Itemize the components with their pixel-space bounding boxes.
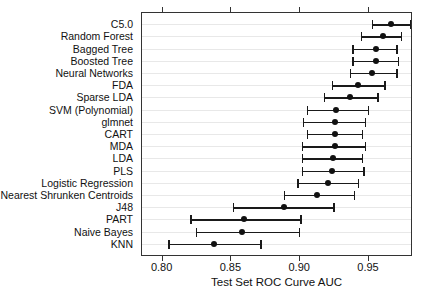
y-axis-tick-label: MDA: [110, 141, 133, 152]
confidence-interval-cap-lower: [361, 32, 362, 41]
data-row: [142, 214, 411, 226]
data-point-marker: [330, 155, 336, 161]
confidence-interval-cap-lower: [332, 81, 333, 90]
y-axis-tick-label: PART: [106, 214, 133, 225]
y-axis-tick-label: Boosted Tree: [71, 55, 133, 66]
x-axis-tick-label: 0.85: [220, 261, 241, 273]
y-axis-tick-label: FDA: [112, 80, 133, 91]
confidence-interval-cap-lower: [168, 240, 169, 249]
data-row: [142, 105, 411, 117]
data-point-marker: [333, 107, 339, 113]
data-row: [142, 68, 411, 80]
y-axis-tick-label: Sparse LDA: [76, 92, 133, 103]
data-row: [142, 80, 411, 92]
confidence-interval-cap-lower: [233, 203, 234, 212]
y-axis-tick-label: J48: [116, 202, 133, 213]
confidence-interval-cap-lower: [324, 93, 325, 102]
confidence-interval-cap-lower: [372, 20, 373, 29]
confidence-interval-cap-lower: [350, 69, 351, 78]
data-point-marker: [329, 168, 335, 174]
data-row: [142, 19, 411, 31]
data-point-marker: [369, 70, 375, 76]
data-row: [142, 56, 411, 68]
data-row: [142, 239, 411, 251]
data-row: [142, 129, 411, 141]
confidence-interval-cap-lower: [302, 142, 303, 151]
data-row: [142, 227, 411, 239]
y-axis-tick-label: Bagged Tree: [73, 43, 133, 54]
data-point-marker: [332, 119, 338, 125]
y-axis-tick-label: SVM (Polynomial): [49, 104, 133, 115]
data-point-marker: [373, 46, 379, 52]
confidence-interval-cap-lower: [196, 228, 197, 237]
confidence-interval-cap-upper: [260, 240, 261, 249]
confidence-interval-cap-upper: [377, 93, 378, 102]
y-axis-tick-label: PLS: [113, 165, 133, 176]
y-axis-tick-label: CART: [105, 129, 133, 140]
confidence-interval-cap-lower: [352, 57, 353, 66]
confidence-interval-cap-upper: [410, 20, 411, 29]
confidence-interval-cap-lower: [284, 191, 285, 200]
x-axis-tick-top: [162, 7, 163, 12]
confidence-interval-cap-upper: [384, 81, 385, 90]
confidence-interval-cap-upper: [396, 69, 397, 78]
roc-auc-dot-chart: C5.0Random ForestBagged TreeBoosted Tree…: [0, 0, 426, 294]
data-row: [142, 92, 411, 104]
confidence-interval-cap-upper: [358, 179, 359, 188]
y-axis-tick-label: Random Forest: [61, 31, 133, 42]
confidence-interval-cap-lower: [190, 215, 191, 224]
confidence-interval-cap-upper: [365, 142, 366, 151]
data-row: [142, 117, 411, 129]
x-axis-tick-top: [230, 7, 231, 12]
data-point-marker: [211, 241, 217, 247]
confidence-interval-cap-lower: [303, 118, 304, 127]
confidence-interval-cap-upper: [362, 154, 363, 163]
confidence-interval-cap-lower: [302, 167, 303, 176]
confidence-interval-cap-upper: [362, 130, 363, 139]
confidence-interval-line: [196, 232, 299, 233]
confidence-interval-cap-upper: [363, 167, 364, 176]
x-axis-tick-label: 0.95: [357, 261, 378, 273]
y-axis-tick-label: glmnet: [101, 116, 133, 127]
confidence-interval-cap-upper: [368, 106, 369, 115]
data-point-marker: [281, 204, 287, 210]
data-point-marker: [388, 21, 394, 27]
data-point-marker: [347, 94, 353, 100]
y-axis-tick-label: Naive Bayes: [74, 226, 133, 237]
data-point-marker: [355, 82, 361, 88]
confidence-interval-cap-lower: [307, 130, 308, 139]
data-point-marker: [380, 33, 386, 39]
x-axis-tick-label: 0.80: [151, 261, 172, 273]
confidence-interval-cap-upper: [300, 215, 301, 224]
data-point-marker: [332, 131, 338, 137]
data-row: [142, 44, 411, 56]
data-point-marker: [241, 216, 247, 222]
data-row: [142, 153, 411, 165]
confidence-interval-cap-upper: [333, 203, 334, 212]
y-axis-tick-label: C5.0: [111, 19, 133, 30]
y-axis-tick-label: Neural Networks: [55, 68, 133, 79]
x-axis-title: Test Set ROC Curve AUC: [141, 276, 412, 288]
confidence-interval-cap-lower: [352, 45, 353, 54]
data-point-marker: [325, 180, 331, 186]
y-axis-tick-label: KNN: [111, 238, 133, 249]
confidence-interval-cap-lower: [302, 154, 303, 163]
plot-area: [141, 12, 412, 256]
data-row: [142, 190, 411, 202]
x-axis-tick-top: [368, 7, 369, 12]
data-point-marker: [239, 229, 245, 235]
y-axis-tick-label: LDA: [113, 153, 133, 164]
y-axis-labels: C5.0Random ForestBagged TreeBoosted Tree…: [0, 12, 137, 256]
y-axis-tick-label: Nearest Shrunken Centroids: [1, 190, 134, 201]
data-row: [142, 178, 411, 190]
data-point-marker: [373, 58, 379, 64]
y-axis-tick-label: Logistic Regression: [41, 177, 133, 188]
confidence-interval-cap-lower: [307, 106, 308, 115]
confidence-interval-cap-upper: [299, 228, 300, 237]
x-axis-tick-label: 0.90: [288, 261, 309, 273]
confidence-interval-cap-upper: [354, 191, 355, 200]
data-row: [142, 31, 411, 43]
data-point-marker: [314, 192, 320, 198]
data-row: [142, 202, 411, 214]
confidence-interval-cap-upper: [398, 57, 399, 66]
